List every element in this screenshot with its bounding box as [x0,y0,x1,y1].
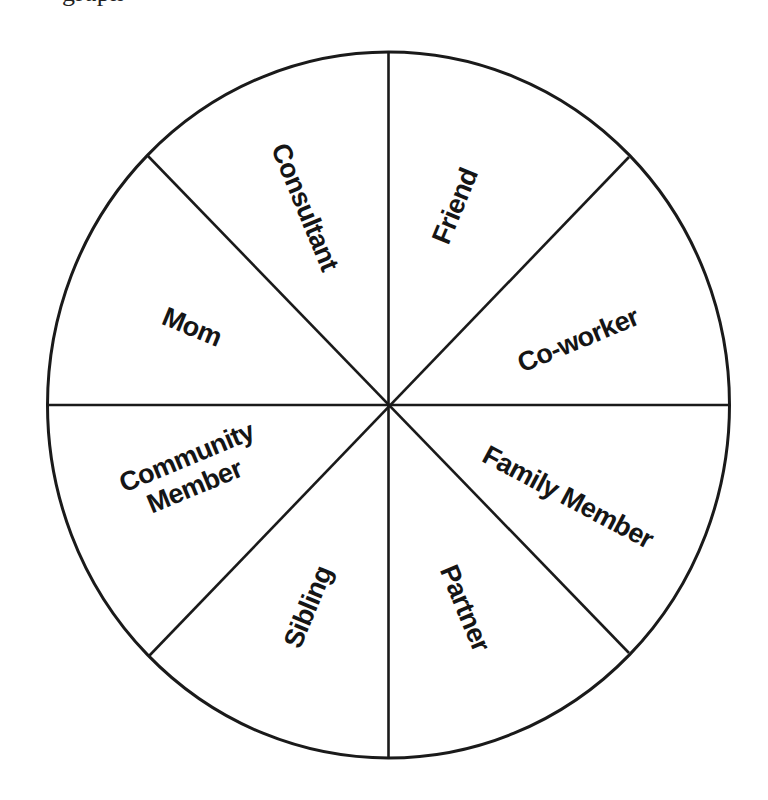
relationship-wheel: Friend Co-worker Family Member Partner S… [0,0,768,800]
